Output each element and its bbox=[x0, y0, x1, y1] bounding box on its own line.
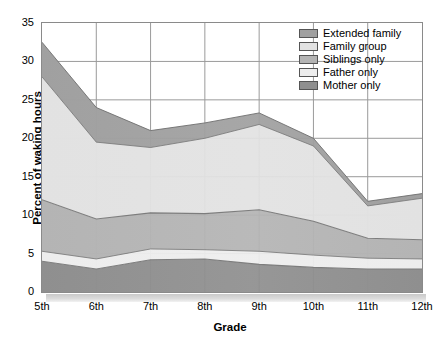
legend-swatch-icon bbox=[299, 42, 318, 51]
y-tick-label: 5 bbox=[4, 248, 34, 258]
x-tick-label: 12th bbox=[399, 300, 435, 312]
legend-label: Family group bbox=[323, 41, 387, 52]
x-tick-label: 10th bbox=[290, 300, 336, 312]
y-tick-label: 35 bbox=[4, 17, 34, 27]
legend-label: Mother only bbox=[323, 80, 380, 91]
y-tick-label: 25 bbox=[4, 94, 34, 104]
legend-label: Extended family bbox=[323, 28, 401, 39]
chart-legend: Extended familyFamily groupSiblings only… bbox=[299, 27, 401, 92]
legend-label: Father only bbox=[323, 67, 378, 78]
x-tick-label: 5th bbox=[19, 300, 65, 312]
y-tick-label: 20 bbox=[4, 132, 34, 142]
legend-item[interactable]: Extended family bbox=[299, 27, 401, 39]
area-chart: Percent of waking hours 35302520151050 5… bbox=[0, 0, 435, 343]
legend-item[interactable]: Siblings only bbox=[299, 53, 401, 65]
x-tick-label: 9th bbox=[236, 300, 282, 312]
y-tick-label: 30 bbox=[4, 55, 34, 65]
legend-item[interactable]: Father only bbox=[299, 66, 401, 78]
x-tick-label: 8th bbox=[182, 300, 228, 312]
legend-swatch-icon bbox=[299, 29, 318, 38]
legend-swatch-icon bbox=[299, 68, 318, 77]
legend-swatch-icon bbox=[299, 55, 318, 64]
y-tick-label: 10 bbox=[4, 209, 34, 219]
legend-swatch-icon bbox=[299, 81, 318, 90]
x-axis-title: Grade bbox=[40, 321, 420, 333]
legend-label: Siblings only bbox=[323, 54, 385, 65]
x-tick-label: 7th bbox=[128, 300, 174, 312]
x-tick-label: 11th bbox=[345, 300, 391, 312]
x-tick-label: 6th bbox=[73, 300, 119, 312]
y-tick-label: 0 bbox=[4, 286, 34, 296]
legend-item[interactable]: Mother only bbox=[299, 79, 401, 91]
y-tick-label: 15 bbox=[4, 171, 34, 181]
legend-item[interactable]: Family group bbox=[299, 40, 401, 52]
y-axis-ticks: 35302520151050 bbox=[0, 0, 34, 343]
